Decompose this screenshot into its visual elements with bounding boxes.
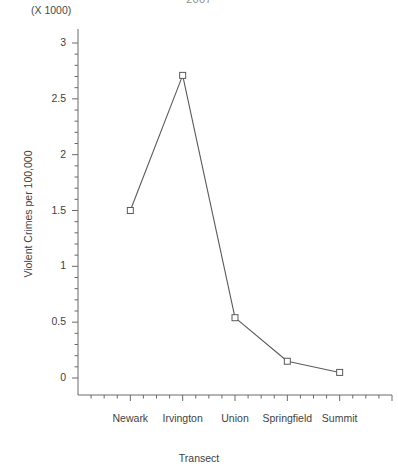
- x-axis-category-label: Newark: [113, 412, 149, 424]
- data-point-marker[interactable]: [284, 358, 290, 364]
- data-point-marker[interactable]: [180, 72, 186, 78]
- series-line: [130, 75, 339, 372]
- x-axis-category-label: Summit: [322, 412, 358, 424]
- series-layer: [127, 72, 342, 375]
- data-point-marker[interactable]: [232, 315, 238, 321]
- data-point-marker[interactable]: [127, 208, 133, 214]
- y-axis-tick-label: 3: [30, 36, 66, 48]
- plot-area: [0, 0, 398, 470]
- y-axis-tick-label: 2: [30, 148, 66, 160]
- chart-figure: 2007 (X 1000) Violent Crimes per 100,000…: [0, 0, 398, 470]
- x-axis-category-label: Irvington: [163, 412, 203, 424]
- x-axis-category-label: Springfield: [263, 412, 313, 424]
- axes-layer: [72, 29, 392, 401]
- y-axis-tick-label: 0.5: [30, 315, 66, 327]
- y-axis-tick-label: 1: [30, 259, 66, 271]
- data-point-marker[interactable]: [337, 369, 343, 375]
- y-axis-tick-label: 2.5: [30, 92, 66, 104]
- y-axis-tick-label: 1.5: [30, 204, 66, 216]
- x-axis-category-label: Union: [221, 412, 248, 424]
- y-axis-tick-label: 0: [30, 371, 66, 383]
